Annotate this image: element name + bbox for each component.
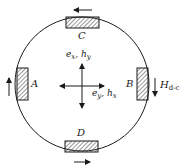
diagram-svg: [0, 0, 185, 168]
port-b-block: [137, 68, 148, 100]
label-sub-x: x: [113, 92, 117, 100]
port-b-label: B: [126, 79, 133, 89]
diagram-canvas: C D A B ex, hy ey, hx Hd-c: [0, 0, 185, 168]
port-a-block: [17, 68, 28, 100]
field-label: Hd-c: [160, 80, 180, 92]
label-sub-dc: d-c: [169, 84, 180, 92]
label-sub-y: y: [87, 53, 91, 61]
vertical-axis-label: ex, hy: [66, 50, 91, 61]
port-d-label: D: [77, 128, 85, 138]
label-H: H: [160, 79, 169, 90]
port-c-label: C: [78, 31, 86, 41]
port-a-label: A: [31, 79, 38, 89]
horizontal-axis-label: ey, hx: [92, 89, 117, 100]
port-c-block: [66, 17, 99, 28]
port-d-block: [65, 141, 98, 152]
